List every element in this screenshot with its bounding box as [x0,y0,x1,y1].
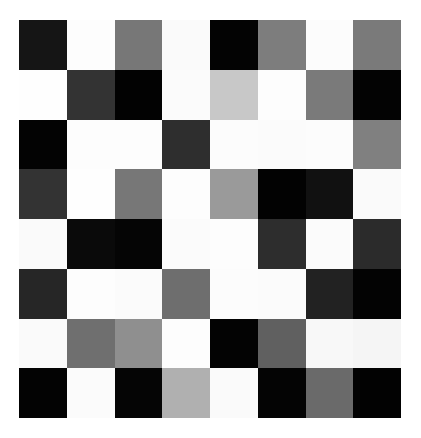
grid-cell-r1-c5 [210,20,258,70]
grid-cell-r1-c4 [162,20,210,70]
grid-cell-r6-c7 [306,269,354,319]
grid-cell-r3-c6 [258,120,306,170]
grid-cell-r6-c4 [162,269,210,319]
grid-cell-r2-c2 [67,70,115,120]
grid-cell-r5-c3 [115,219,163,269]
grid-cell-r7-c6 [258,319,306,369]
grid-cell-r1-c6 [258,20,306,70]
grid-cell-r1-c3 [115,20,163,70]
grid-cell-r4-c2 [67,169,115,219]
grid-cell-r1-c1 [19,20,67,70]
grid-cell-r8-c1 [19,368,67,418]
grid-cell-r8-c5 [210,368,258,418]
grid-cell-r5-c2 [67,219,115,269]
grid-cell-r7-c2 [67,319,115,369]
grid-cell-r1-c7 [306,20,354,70]
grid-cell-r8-c6 [258,368,306,418]
grid-cell-r6-c6 [258,269,306,319]
grid-cell-r5-c1 [19,219,67,269]
grid-cell-r6-c8 [353,269,401,319]
grid-cell-r2-c4 [162,70,210,120]
grid-cell-r7-c3 [115,319,163,369]
grid-cell-r7-c7 [306,319,354,369]
grayscale-grid [19,20,401,418]
grid-cell-r1-c2 [67,20,115,70]
grid-cell-r5-c4 [162,219,210,269]
grid-cell-r6-c1 [19,269,67,319]
grid-cell-r2-c3 [115,70,163,120]
grid-cell-r7-c1 [19,319,67,369]
grid-cell-r6-c2 [67,269,115,319]
grid-cell-r7-c4 [162,319,210,369]
grid-cell-r7-c8 [353,319,401,369]
grid-cell-r8-c4 [162,368,210,418]
grid-cell-r5-c5 [210,219,258,269]
grid-cell-r8-c8 [353,368,401,418]
grid-cell-r5-c6 [258,219,306,269]
grid-cell-r4-c5 [210,169,258,219]
grid-cell-r3-c4 [162,120,210,170]
grid-cell-r8-c2 [67,368,115,418]
grid-cell-r2-c1 [19,70,67,120]
grid-cell-r5-c8 [353,219,401,269]
grid-cell-r1-c8 [353,20,401,70]
grid-cell-r3-c8 [353,120,401,170]
grid-cell-r4-c1 [19,169,67,219]
grid-cell-r4-c6 [258,169,306,219]
grid-cell-r3-c1 [19,120,67,170]
grid-cell-r8-c3 [115,368,163,418]
grid-cell-r3-c2 [67,120,115,170]
grid-cell-r4-c8 [353,169,401,219]
grid-cell-r2-c7 [306,70,354,120]
grid-cell-r3-c7 [306,120,354,170]
grid-cell-r3-c3 [115,120,163,170]
grid-cell-r6-c3 [115,269,163,319]
grid-cell-r2-c5 [210,70,258,120]
grid-cell-r4-c4 [162,169,210,219]
grid-cell-r2-c8 [353,70,401,120]
grid-cell-r3-c5 [210,120,258,170]
grid-cell-r7-c5 [210,319,258,369]
grid-cell-r5-c7 [306,219,354,269]
grid-cell-r8-c7 [306,368,354,418]
grid-cell-r4-c7 [306,169,354,219]
grid-cell-r2-c6 [258,70,306,120]
grid-cell-r6-c5 [210,269,258,319]
grid-cell-r4-c3 [115,169,163,219]
